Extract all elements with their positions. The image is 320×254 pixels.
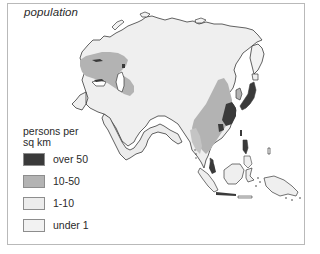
mainland-asia [80,16,262,168]
legend-swatch-under-1 [23,219,45,232]
legend-swatch-over-50 [23,153,45,166]
legend-label: under 1 [53,219,89,231]
legend-swatch-10-50 [23,175,45,188]
new-guinea [264,176,298,196]
legend-label: 1-10 [53,197,74,209]
kamchatka [250,44,264,74]
legend-label: 10-50 [53,175,80,187]
taiwan [240,130,242,136]
lesser-sunda [238,196,252,198]
korea [236,88,242,100]
malaysia-peninsula [210,158,214,170]
hokkaido [252,74,258,80]
legend-item-10-50: 10-50 [23,174,80,188]
legend-item-over-50: over 50 [23,152,88,166]
java [216,192,236,196]
philippines-luzon [243,140,248,154]
japan [240,82,256,110]
pacific-island [268,148,270,154]
legend-label: over 50 [53,153,88,165]
density-over-50-urals [122,64,125,68]
borneo [224,164,244,184]
philippines-south [244,156,252,168]
sulawesi [246,168,254,182]
legend-item-1-10: 1-10 [23,196,74,210]
west-asia-coast [72,92,86,110]
legend-title-line2: sq km [23,137,83,148]
novaya-zemlya [112,20,124,30]
legend-item-under-1: under 1 [23,218,89,232]
legend-title: persons per sq km [23,126,83,148]
legend-swatch-1-10 [23,197,45,210]
